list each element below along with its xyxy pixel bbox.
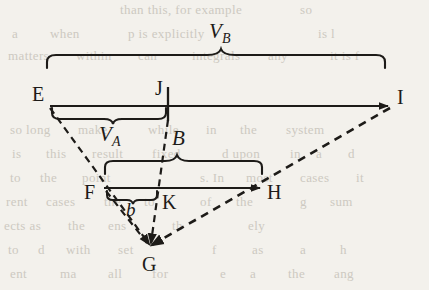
point-label-F: F [84,181,95,203]
brace-label-VB-sub: B [222,31,231,46]
geometry-figure: E J I F K H G V B V A B b [0,0,429,290]
point-label-K: K [162,191,177,213]
brace-label-b: b [126,199,136,220]
point-label-E: E [32,83,44,105]
ray-J-G [151,120,168,243]
brace-label-B: B [172,126,185,150]
point-label-J: J [155,77,163,99]
brace-vb-path [47,49,385,68]
point-label-H: H [267,181,281,203]
ray-I-G [152,108,390,245]
point-label-G: G [142,253,156,275]
point-label-I: I [397,86,404,108]
brace-group [47,49,385,204]
brace-b-upper-path [105,155,262,174]
brace-label-VA-sub: A [111,134,121,149]
